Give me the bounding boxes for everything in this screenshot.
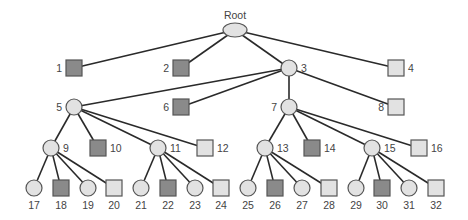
node-29-circle [348,180,364,196]
tree-edges [34,30,436,188]
node-24-square [213,180,229,196]
node-label-7: 7 [271,101,277,113]
node-9-circle [43,140,59,156]
node-32-square [428,180,444,196]
node-18-square [53,180,69,196]
node-26-square [267,180,283,196]
node-25-circle [240,180,256,196]
node-label-16: 16 [431,142,443,154]
node-label-25: 25 [242,199,254,211]
node-19-circle [80,180,96,196]
node-label-21: 21 [135,199,147,211]
node-label-31: 31 [403,199,415,211]
node-label-19: 19 [82,199,94,211]
node-label-5: 5 [56,101,62,113]
node-label-13: 13 [277,142,289,154]
node-label-12: 12 [217,142,229,154]
node-label-20: 20 [108,199,120,211]
node-1-square [66,60,82,76]
root-node [223,23,247,37]
node-label-2: 2 [163,62,169,74]
node-6-square [173,99,189,115]
node-4-square [388,60,404,76]
node-20-square [106,180,122,196]
node-3-circle [281,60,297,76]
node-label-8: 8 [378,101,384,113]
edge-root-4 [235,30,396,68]
node-7-circle [281,99,297,115]
node-2-square [173,60,189,76]
node-13-circle [257,140,273,156]
node-label-6: 6 [163,101,169,113]
node-14-square [304,140,320,156]
node-label-22: 22 [162,199,174,211]
node-label-27: 27 [296,199,308,211]
node-31-circle [401,180,417,196]
node-21-circle [133,180,149,196]
node-label-24: 24 [215,199,227,211]
node-28-square [321,180,337,196]
node-8-square [388,99,404,115]
node-15-circle [364,140,380,156]
node-label-11: 11 [170,142,181,154]
node-label-23: 23 [189,199,201,211]
edge-root-1 [74,30,235,68]
node-30-square [374,180,390,196]
node-label-10: 10 [110,142,122,154]
node-label-29: 29 [350,199,362,211]
node-label-1: 1 [56,62,62,74]
node-label-18: 18 [55,199,67,211]
root-label: Root [224,9,246,21]
tree-diagram: Root123456789101112131415161718192021222… [0,0,468,220]
node-10-square [90,140,106,156]
node-label-14: 14 [324,142,336,154]
node-label-9: 9 [63,142,69,154]
node-11-circle [150,140,166,156]
node-label-17: 17 [28,199,40,211]
node-label-28: 28 [323,199,335,211]
node-label-4: 4 [408,62,414,74]
node-label-32: 32 [430,199,442,211]
node-17-circle [26,180,42,196]
node-22-square [160,180,176,196]
node-label-3: 3 [301,62,307,74]
node-16-square [411,140,427,156]
node-label-15: 15 [384,142,396,154]
node-12-square [197,140,213,156]
node-27-circle [294,180,310,196]
node-label-26: 26 [269,199,281,211]
node-label-30: 30 [376,199,388,211]
node-5-circle [66,99,82,115]
node-23-circle [187,180,203,196]
